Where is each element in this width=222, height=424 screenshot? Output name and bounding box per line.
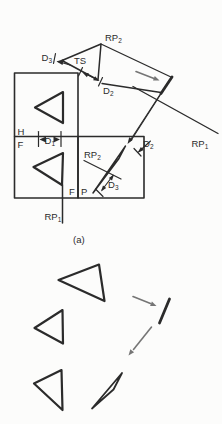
scanned-figure-page: RP2 D3 TS D2 RP1 H F D1 RP2 D2 D3 F P RP…	[0, 0, 222, 424]
label-ts: TS	[74, 55, 86, 66]
label-f-inner: F	[69, 186, 75, 197]
label-p-inner: P	[81, 186, 87, 197]
label-h: H	[18, 126, 25, 137]
label-f-left: F	[18, 139, 24, 150]
diagram-canvas: RP2 D3 TS D2 RP1 H F D1 RP2 D2 D3 F P RP…	[0, 0, 222, 424]
caption-a: (a)	[73, 234, 85, 245]
paper-background	[0, 0, 222, 424]
